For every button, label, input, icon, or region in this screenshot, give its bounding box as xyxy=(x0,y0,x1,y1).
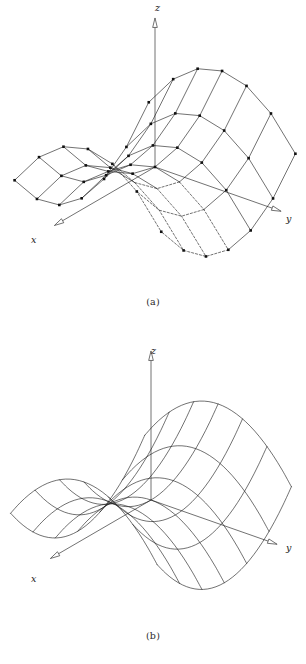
axis-label-z-a: z xyxy=(154,2,161,13)
figure-panel-a: z y x xyxy=(0,0,306,330)
axis-label-z-b: z xyxy=(150,345,157,356)
axis-label-x-a: x xyxy=(31,234,37,245)
axis-label-y-b: y xyxy=(285,542,292,553)
axes-b xyxy=(50,351,277,559)
axis-label-y-a: y xyxy=(285,213,292,224)
footer-partial-text xyxy=(0,657,306,664)
axes-a xyxy=(54,18,281,226)
figure-panel-b: z y x xyxy=(0,330,306,664)
caption-b: (b) xyxy=(0,630,306,641)
saddle-surface-mesh-b: z y x xyxy=(0,330,306,664)
caption-a: (a) xyxy=(0,296,306,307)
saddle-surface-mesh-a: z y x xyxy=(0,0,306,330)
axis-label-x-b: x xyxy=(31,573,37,584)
